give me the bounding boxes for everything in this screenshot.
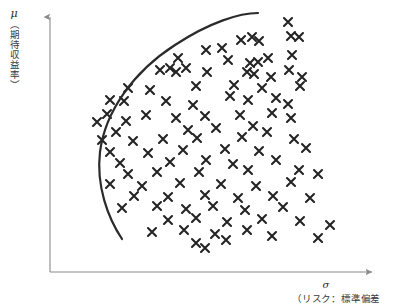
- scatter-point: [106, 96, 114, 104]
- scatter-point: [244, 166, 252, 174]
- scatter-point: [93, 118, 101, 126]
- scatter-point: [243, 226, 251, 234]
- scatter-point: [146, 86, 154, 94]
- scatter-point: [156, 66, 164, 74]
- scatter-point: [244, 96, 252, 104]
- scatter-point: [284, 18, 292, 26]
- scatter-point: [116, 159, 124, 167]
- scatter-point: [226, 92, 234, 100]
- scatter-point: [130, 192, 138, 200]
- scatter-point: [295, 166, 303, 174]
- scatter-point: [326, 221, 334, 229]
- plot-canvas: [0, 0, 394, 304]
- scatter-point: [189, 101, 197, 109]
- y-axis-symbol: μ: [10, 8, 17, 19]
- scatter-point: [296, 82, 304, 90]
- scatter-point: [258, 84, 266, 92]
- scatter-point: [295, 33, 303, 41]
- scatter-point: [230, 81, 238, 89]
- scatter-point: [159, 135, 167, 143]
- scatter-point: [179, 146, 187, 154]
- scatter-point: [176, 179, 184, 187]
- scatter-point: [195, 168, 203, 176]
- scatter-point: [192, 239, 200, 247]
- scatter-point: [180, 226, 188, 234]
- scatter-point: [153, 168, 161, 176]
- scatter-point: [287, 178, 295, 186]
- scatter-points-layer: [93, 18, 334, 252]
- scatter-point: [229, 160, 237, 168]
- scatter-point: [314, 170, 322, 178]
- scatter-point: [224, 56, 232, 64]
- scatter-point: [241, 206, 249, 214]
- scatter-point: [182, 64, 190, 72]
- scatter-point: [192, 214, 200, 222]
- scatter-point: [162, 97, 170, 105]
- scatter-point: [129, 137, 137, 145]
- scatter-point: [269, 192, 277, 200]
- scatter-point: [201, 112, 209, 120]
- scatter-point: [122, 117, 130, 125]
- x-axis-label-text: （リスク：標準偏差: [292, 291, 380, 304]
- scatter-point: [298, 73, 306, 81]
- scatter-point: [237, 36, 245, 44]
- scatter-point: [142, 111, 150, 119]
- scatter-point: [201, 244, 209, 252]
- scatter-point: [288, 51, 296, 59]
- scatter-point: [203, 68, 211, 76]
- y-axis-label-text: （期待収益率）: [9, 20, 19, 90]
- scatter-point: [296, 217, 304, 225]
- scatter-point: [202, 156, 210, 164]
- efficient-frontier-chart: μ （期待収益率） σ （リスク：標準偏差: [0, 0, 394, 304]
- scatter-point: [211, 230, 219, 238]
- scatter-point: [112, 128, 120, 136]
- scatter-point: [221, 145, 229, 153]
- scatter-point: [106, 148, 114, 156]
- scatter-point: [267, 73, 275, 81]
- scatter-point: [164, 193, 172, 201]
- y-axis-label: μ （期待収益率）: [2, 8, 26, 90]
- scatter-point: [234, 194, 242, 202]
- scatter-point: [209, 202, 217, 210]
- scatter-point: [302, 144, 310, 152]
- scatter-point: [254, 58, 262, 66]
- scatter-point: [182, 205, 190, 213]
- scatter-point: [306, 194, 314, 202]
- scatter-point: [174, 54, 182, 62]
- scatter-point: [192, 82, 200, 90]
- scatter-point: [268, 109, 276, 117]
- scatter-point: [193, 134, 201, 142]
- scatter-point: [144, 149, 152, 157]
- scatter-point: [153, 202, 161, 210]
- scatter-point: [118, 204, 126, 212]
- x-axis-symbol: σ: [316, 279, 336, 290]
- scatter-point: [172, 114, 180, 122]
- scatter-point: [238, 133, 246, 141]
- scatter-point: [202, 46, 210, 54]
- scatter-point: [217, 180, 225, 188]
- scatter-point: [201, 191, 209, 199]
- scatter-point: [279, 203, 287, 211]
- scatter-point: [285, 66, 293, 74]
- efficient-frontier-curve: [99, 13, 258, 239]
- scatter-point: [268, 232, 276, 240]
- scatter-point: [249, 122, 257, 130]
- scatter-point: [164, 216, 172, 224]
- scatter-point: [290, 135, 298, 143]
- scatter-point: [236, 111, 244, 119]
- scatter-point: [284, 100, 292, 108]
- scatter-point: [314, 234, 322, 242]
- scatter-point: [252, 182, 260, 190]
- scatter-point: [255, 147, 263, 155]
- scatter-point: [166, 158, 174, 166]
- scatter-point: [222, 236, 230, 244]
- scatter-point: [272, 94, 280, 102]
- scatter-point: [148, 228, 156, 236]
- scatter-point: [246, 59, 254, 67]
- scatter-point: [264, 54, 272, 62]
- scatter-point: [250, 70, 258, 78]
- scatter-point: [184, 126, 192, 134]
- scatter-point: [124, 170, 132, 178]
- scatter-point: [272, 156, 280, 164]
- scatter-point: [106, 180, 114, 188]
